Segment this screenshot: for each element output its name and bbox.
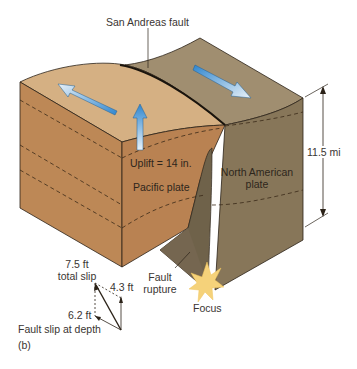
north-american-plate-label-line1: North American xyxy=(218,166,296,178)
pacific-plate-label: Pacific plate xyxy=(133,181,190,193)
total-slip-label: 7.5 ft total slip xyxy=(52,258,102,282)
san-andreas-fault-label: San Andreas fault xyxy=(106,16,189,28)
panel-label: (b) xyxy=(18,339,31,351)
fault-rupture-label: Fault rupture xyxy=(140,271,180,295)
total-slip-text: total slip xyxy=(52,270,102,282)
fault-rupture-line2: rupture xyxy=(140,283,180,295)
depth-label: 11.5 mi xyxy=(307,146,341,158)
total-slip-value: 7.5 ft xyxy=(52,258,102,270)
fault-rupture-line1: Fault xyxy=(140,271,180,283)
horizontal-component-label: 6.2 ft xyxy=(68,309,91,321)
north-american-plate-label-line2: plate xyxy=(218,178,296,190)
focus-label: Focus xyxy=(193,302,222,314)
fault-slip-at-depth-label: Fault slip at depth xyxy=(18,323,101,335)
vertical-component-label: 4.3 ft xyxy=(110,281,133,293)
north-american-plate-side xyxy=(215,98,303,290)
uplift-label: Uplift = 14 in. xyxy=(130,157,192,169)
north-american-plate-label: North American plate xyxy=(218,166,296,190)
